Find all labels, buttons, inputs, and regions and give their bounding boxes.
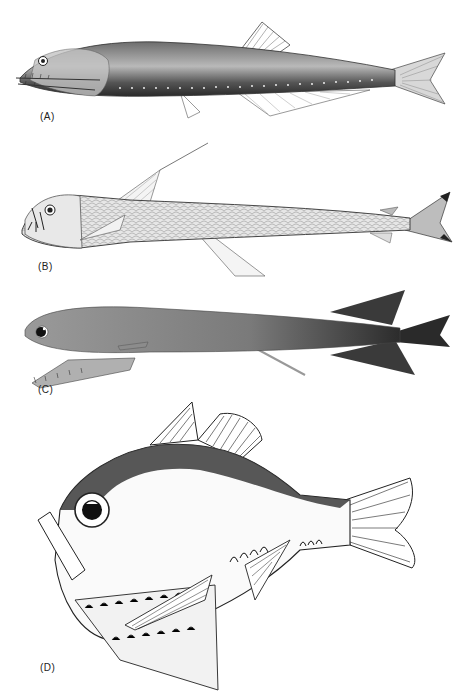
adipose-fin (380, 207, 398, 215)
panel-label-c: (C) (38, 384, 53, 395)
panel-c: (C) (0, 280, 471, 400)
panel-d: (D) (0, 400, 471, 692)
fish-b-illustration (0, 130, 471, 280)
dorsal-fin (242, 22, 290, 52)
anal-fin (370, 233, 392, 243)
anal-fin (238, 90, 370, 116)
panel-label-b: (B) (38, 261, 53, 272)
caudal-fin (345, 478, 415, 568)
pelvic-ray (255, 348, 305, 375)
panel-label-a: (A) (40, 111, 55, 122)
dorsal-fin (330, 290, 405, 325)
dorsal-filament (160, 143, 208, 170)
fish-a-illustration (0, 0, 471, 130)
pelvic-fin (198, 234, 265, 276)
panel-label-d: (D) (40, 662, 55, 673)
fish-d-illustration (0, 400, 471, 692)
caudal-fin (390, 53, 445, 104)
dorsal-spine-fin (150, 402, 198, 445)
panel-b: (B) (0, 130, 471, 280)
panel-a: (A) (0, 0, 471, 130)
fish-c-illustration (0, 280, 471, 400)
caudal-fin (395, 315, 450, 347)
dorsal-fin (118, 170, 160, 202)
